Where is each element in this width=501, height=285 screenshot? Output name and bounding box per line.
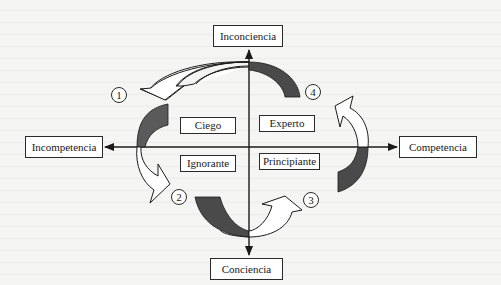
axis-label-left: Incompetencia [25, 136, 103, 158]
step-marker-2: 2 [171, 189, 187, 205]
axis-label-bottom: Conciencia [210, 258, 283, 280]
filled-curve-arrow-top [249, 62, 300, 97]
axis-label-left-text: Incompetencia [32, 142, 97, 153]
hollow-arrow-step-3 [249, 196, 302, 237]
axis-label-top: Inconciencia [213, 25, 283, 47]
axis-label-bottom-text: Conciencia [222, 264, 271, 275]
quadrant-label-bottom-right: Principiante [259, 153, 320, 170]
step-marker-1: 1 [111, 87, 127, 103]
quadrant-label-top-left: Ciego [180, 117, 236, 134]
quadrant-bottom-right-text: Principiante [263, 156, 316, 167]
hollow-arrow-step-2 [137, 147, 170, 203]
filled-curve-arrow-bottom [195, 197, 249, 237]
quadrant-label-top-right: Experto [259, 115, 315, 132]
quadrant-top-left-text: Ciego [195, 120, 221, 131]
axis-label-right: Competencia [399, 136, 477, 158]
step-marker-3: 3 [303, 192, 319, 208]
axis-label-top-text: Inconciencia [220, 31, 276, 42]
filled-curve-arrow-left [137, 104, 168, 147]
step-2-text: 2 [176, 191, 182, 203]
step-3-text: 3 [308, 194, 314, 206]
quadrant-label-bottom-left: Ignorante [180, 155, 236, 172]
filled-curve-arrow-right [338, 147, 368, 192]
diagram-canvas: Inconciencia Conciencia Incompetencia Co… [0, 0, 501, 285]
quadrant-bottom-left-text: Ignorante [187, 158, 229, 169]
step-1-text: 1 [116, 89, 122, 101]
step-4-text: 4 [310, 86, 316, 98]
axis-label-right-text: Competencia [409, 142, 467, 153]
hollow-arrow-step-4 [335, 96, 368, 147]
quadrant-top-right-text: Experto [270, 118, 305, 129]
step-marker-4: 4 [305, 84, 321, 100]
